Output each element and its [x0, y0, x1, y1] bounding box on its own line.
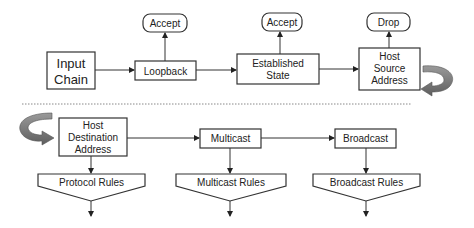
broadcast-rules-label: Broadcast Rules: [330, 177, 403, 188]
input-chain-label-line1: Input: [57, 56, 86, 71]
protocol-rules-node: Protocol Rules: [38, 174, 145, 201]
broadcast-rules-node: Broadcast Rules: [313, 174, 420, 201]
multicast-rules-label: Multicast Rules: [197, 177, 265, 188]
multicast-node: Multicast: [200, 129, 261, 148]
host-source-label-line3: Address: [371, 75, 408, 86]
multicast-rules-node: Multicast Rules: [176, 174, 286, 201]
accept-2-label: Accept: [267, 17, 298, 28]
accept-terminal-2: Accept: [262, 13, 302, 31]
drop-terminal: Drop: [367, 13, 410, 31]
input-chain-label-line2: Chain: [54, 72, 88, 87]
multicast-label: Multicast: [211, 133, 251, 144]
host-dest-label-line2: Destination: [68, 132, 118, 143]
host-source-label-line2: Source: [374, 63, 406, 74]
curved-continue-arrow-icon: [20, 113, 54, 145]
accept-1-label: Accept: [150, 18, 181, 29]
input-chain-node: Input Chain: [47, 52, 95, 89]
protocol-rules-label: Protocol Rules: [59, 177, 124, 188]
host-dest-label-line3: Address: [75, 144, 112, 155]
host-dest-label-line1: Host: [83, 120, 104, 131]
firewall-chain-diagram: Input Chain Loopback Accept Established …: [0, 0, 474, 228]
loopback-label: Loopback: [144, 66, 188, 77]
curved-continue-arrow-icon: [421, 66, 453, 96]
accept-terminal-1: Accept: [143, 14, 187, 32]
established-label-line2: State: [266, 70, 290, 81]
host-source-label-line1: Host: [379, 51, 400, 62]
drop-label: Drop: [378, 17, 400, 28]
loopback-node: Loopback: [135, 61, 196, 80]
established-state-node: Established State: [237, 54, 319, 84]
broadcast-label: Broadcast: [343, 133, 388, 144]
broadcast-node: Broadcast: [335, 129, 396, 148]
host-source-address-node: Host Source Address: [359, 48, 420, 90]
established-label-line1: Established: [252, 58, 304, 69]
host-destination-address-node: Host Destination Address: [59, 118, 127, 156]
